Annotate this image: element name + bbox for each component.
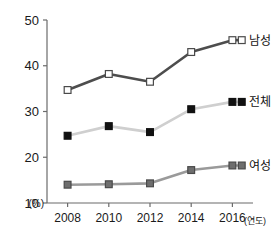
data-point-marker bbox=[147, 78, 154, 85]
series-legend-marker bbox=[238, 37, 245, 44]
axes-group bbox=[47, 20, 253, 203]
y-tick-label: 40 bbox=[25, 58, 39, 73]
y-tick-label: 30 bbox=[25, 104, 39, 119]
data-point-marker bbox=[64, 87, 71, 94]
data-point-marker bbox=[64, 181, 71, 188]
x-tick-label: 2010 bbox=[95, 211, 122, 225]
y-tick-label: 20 bbox=[25, 150, 39, 165]
y-axis-ticks: 1020304050 bbox=[25, 13, 47, 211]
data-point-marker bbox=[147, 129, 154, 136]
y-tick-label: 50 bbox=[25, 13, 39, 28]
x-axis-ticks: 20082010201220142016 bbox=[54, 203, 246, 225]
data-point-marker bbox=[105, 71, 112, 78]
y-axis-unit-label: (%) bbox=[28, 198, 44, 209]
data-point-marker bbox=[188, 49, 195, 56]
x-tick-label: 2012 bbox=[137, 211, 164, 225]
x-tick-label: 2014 bbox=[178, 211, 205, 225]
series-labels: 남성전체여성 bbox=[249, 34, 271, 173]
data-point-marker bbox=[147, 180, 154, 187]
data-point-marker bbox=[229, 37, 236, 44]
series-layer bbox=[64, 37, 245, 188]
x-tick-label: 2016 bbox=[219, 211, 246, 225]
data-point-marker bbox=[229, 98, 236, 105]
series-name-label: 여성 bbox=[249, 159, 271, 173]
data-point-marker bbox=[229, 162, 236, 169]
series-legend-marker bbox=[238, 98, 245, 105]
data-point-marker bbox=[188, 106, 195, 113]
x-tick-label: 2008 bbox=[54, 211, 81, 225]
series-name-label: 전체 bbox=[249, 95, 271, 109]
x-axis-caption-label: (연도) bbox=[244, 216, 266, 226]
series-legend-marker bbox=[238, 162, 245, 169]
line-chart: 1020304050 20082010201220142016 남성전체여성 (… bbox=[0, 0, 280, 246]
data-point-marker bbox=[105, 181, 112, 188]
chart-canvas: 1020304050 20082010201220142016 남성전체여성 (… bbox=[0, 0, 280, 246]
series-name-label: 남성 bbox=[249, 34, 271, 48]
data-point-marker bbox=[188, 167, 195, 174]
data-point-marker bbox=[105, 123, 112, 130]
data-point-marker bbox=[64, 132, 71, 139]
